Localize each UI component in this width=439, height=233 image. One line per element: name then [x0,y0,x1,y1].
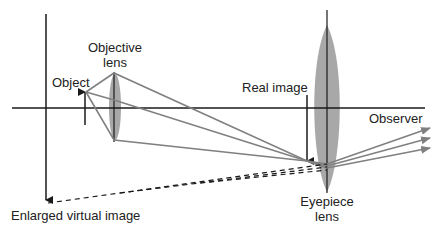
object-label: Object [52,75,90,90]
enlarged-virtual-image-label: Enlarged virtual image [11,208,140,223]
objective-lens-label: Objective lens [84,40,146,70]
real-image-label: Real image [242,80,308,95]
observer-label: Observer [369,111,422,126]
objective-lens-shape [109,74,121,140]
virtual-rays-dashed [48,164,327,203]
eyepiece-lens-label: Eyepiece lens [297,194,357,224]
observer-rays [327,128,430,168]
